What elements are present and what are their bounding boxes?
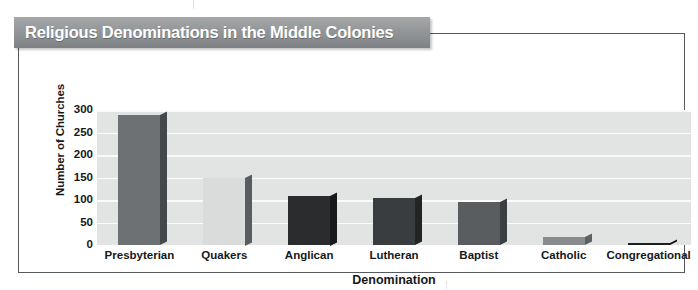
bar-congregational (628, 243, 677, 245)
bar-face (203, 178, 245, 246)
bar-side-face (160, 112, 167, 245)
bar-face (458, 202, 500, 245)
chart-frame: Number of Churches 300 250 200 150 100 5… (18, 33, 685, 273)
y-tick-label: 50 (59, 216, 93, 228)
bar-anglican (288, 196, 337, 246)
x-axis-tick-labels: PresbyterianQuakersAnglicanLutheranBapti… (97, 249, 691, 267)
y-tick-label: 150 (59, 171, 93, 183)
bar-side-face (500, 199, 507, 245)
bar-side-face (330, 192, 337, 245)
chart-title-banner: Religious Denominations in the Middle Co… (14, 17, 430, 48)
x-axis-title: Denomination (97, 273, 691, 287)
gridline (97, 110, 691, 112)
gridline (97, 155, 691, 157)
bar-face (118, 115, 160, 245)
bar-catholic (543, 237, 592, 245)
bar-lutheran (373, 198, 422, 245)
bar-side-face (245, 174, 252, 245)
y-tick-label: 250 (59, 126, 93, 138)
y-tick-label: 100 (59, 193, 93, 205)
y-tick-label: 200 (59, 148, 93, 160)
chart-title: Religious Denominations in the Middle Co… (14, 23, 394, 42)
chart-figure: Number of Churches 300 250 200 150 100 5… (0, 0, 698, 290)
bar-side-face (585, 233, 592, 245)
bar-presbyterian (118, 115, 167, 245)
bar-face (543, 237, 585, 245)
bar-quakers (203, 178, 252, 246)
plot-area (97, 110, 691, 245)
y-axis-tick-labels: 300 250 200 150 100 50 0 (57, 110, 93, 245)
bar-baptist (458, 202, 507, 245)
y-tick-label: 300 (59, 103, 93, 115)
gridline (97, 178, 691, 180)
x-tick-label: Congregational (589, 249, 698, 261)
bar-side-face (415, 194, 422, 245)
page-scan-artifact-top (193, 0, 194, 9)
bar-face (373, 198, 415, 245)
bar-side-face (670, 239, 677, 245)
bar-face (628, 243, 670, 245)
bar-face (288, 196, 330, 246)
gridline (97, 133, 691, 135)
